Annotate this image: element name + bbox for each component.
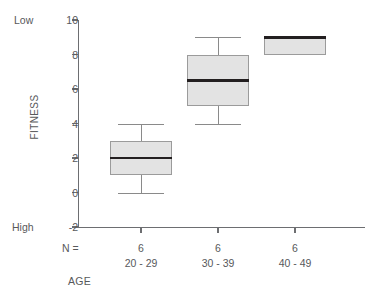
n-row-label: N = <box>62 243 79 254</box>
x-tick-mark <box>140 227 141 233</box>
y-tick-label: -2 <box>44 222 78 233</box>
y-tick-label: 4 <box>44 119 78 130</box>
whisker-lower-cap <box>195 124 241 125</box>
median-line <box>110 157 172 160</box>
boxplot-chart: 1086420-2 Low High FITNESS N = 620 - 296… <box>0 0 372 295</box>
group-label: 20 - 29 <box>103 258 179 269</box>
x-axis-line <box>78 227 365 228</box>
y-axis-title: FITNESS <box>30 77 40 157</box>
whisker-lower-cap <box>118 193 164 194</box>
group-label: 40 - 49 <box>257 258 333 269</box>
y-axis-bottom-endpoint-label: High <box>12 222 34 233</box>
group-count: 6 <box>257 243 333 254</box>
whisker-upper-stem <box>218 37 219 54</box>
box-40-49 <box>264 37 326 54</box>
median-line <box>264 36 326 39</box>
x-axis-title: AGE <box>68 276 91 287</box>
y-axis-line <box>78 20 79 228</box>
y-tick-label: 2 <box>44 153 78 164</box>
group-label: 30 - 39 <box>180 258 256 269</box>
whisker-upper-stem <box>141 124 142 141</box>
y-tick-label: 6 <box>44 84 78 95</box>
whisker-lower-stem <box>218 106 219 123</box>
y-tick-label: 0 <box>44 188 78 199</box>
y-axis-top-endpoint-label: Low <box>14 15 33 26</box>
x-tick-mark <box>294 227 295 233</box>
x-tick-mark <box>217 227 218 233</box>
whisker-lower-stem <box>141 175 142 192</box>
group-count: 6 <box>180 243 256 254</box>
y-tick-label: 8 <box>44 50 78 61</box>
y-tick-label: 10 <box>44 15 78 26</box>
whisker-upper-cap <box>118 124 164 125</box>
whisker-upper-cap <box>195 37 241 38</box>
median-line <box>187 79 249 82</box>
group-count: 6 <box>103 243 179 254</box>
